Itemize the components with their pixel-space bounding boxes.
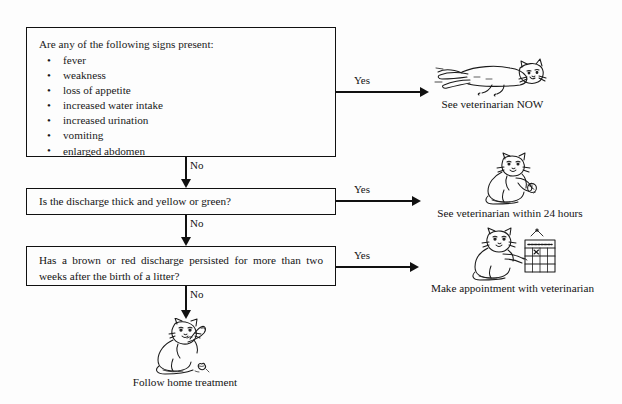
grooming-cat-icon [142,318,228,376]
decision-box-discharge: Is the discharge thick and yellow or gre… [26,188,336,215]
symptom-item: increased water intake [39,98,323,113]
decision-box-signs: Are any of the following signs present: … [26,27,336,157]
symptom-item: enlarged abdomen [39,144,323,159]
symptom-item: loss of appetite [39,83,323,98]
decision-box-persist: Has a brown or red discharge persisted f… [26,246,336,286]
outcome-vet-24h-caption: See veterinarian within 24 hours [410,207,610,220]
decision-box-persist-text: Has a brown or red discharge persisted f… [39,253,323,284]
symptom-item: increased urination [39,113,323,128]
edge-label-discharge-no: No [190,217,203,229]
outcome-appointment-caption: Make appointment with veterinarian [405,282,620,295]
edge-label-signs-no: No [190,159,203,171]
edge-label-discharge-yes: Yes [354,183,370,195]
outcome-home-treatment-caption: Follow home treatment [95,376,275,389]
edge-discharge-yes-line [336,200,414,202]
outcome-home-treatment: Follow home treatment [95,318,275,389]
edge-discharge-no-line [185,215,187,238]
edge-signs-no-arrowhead [181,179,191,188]
edge-signs-no-line [185,157,187,180]
cat-with-calendar-icon [467,226,559,282]
flowchart-page: Are any of the following signs present: … [0,0,622,404]
decision-box-signs-prompt: Are any of the following signs present: [39,37,323,51]
edge-label-signs-yes: Yes [354,74,370,86]
outcome-vet-now: See veterinarian NOW [410,58,575,111]
edge-persist-no-line [185,286,187,311]
symptom-item: weakness [39,68,323,83]
cat-with-watch-icon [474,152,546,207]
edge-discharge-no-arrowhead [181,237,191,246]
symptom-item: fever [39,53,323,68]
running-cat-icon [434,58,552,98]
decision-box-discharge-text: Is the discharge thick and yellow or gre… [39,194,231,210]
edge-label-persist-no: No [190,288,203,300]
outcome-vet-24h: See veterinarian within 24 hours [410,152,610,220]
outcome-vet-now-caption: See veterinarian NOW [410,98,575,111]
symptom-list: fever weakness loss of appetite increase… [39,53,323,159]
symptom-item: vomiting [39,128,323,143]
edge-label-persist-yes: Yes [354,249,370,261]
edge-persist-yes-line [336,266,412,268]
outcome-appointment: Make appointment with veterinarian [405,226,620,295]
